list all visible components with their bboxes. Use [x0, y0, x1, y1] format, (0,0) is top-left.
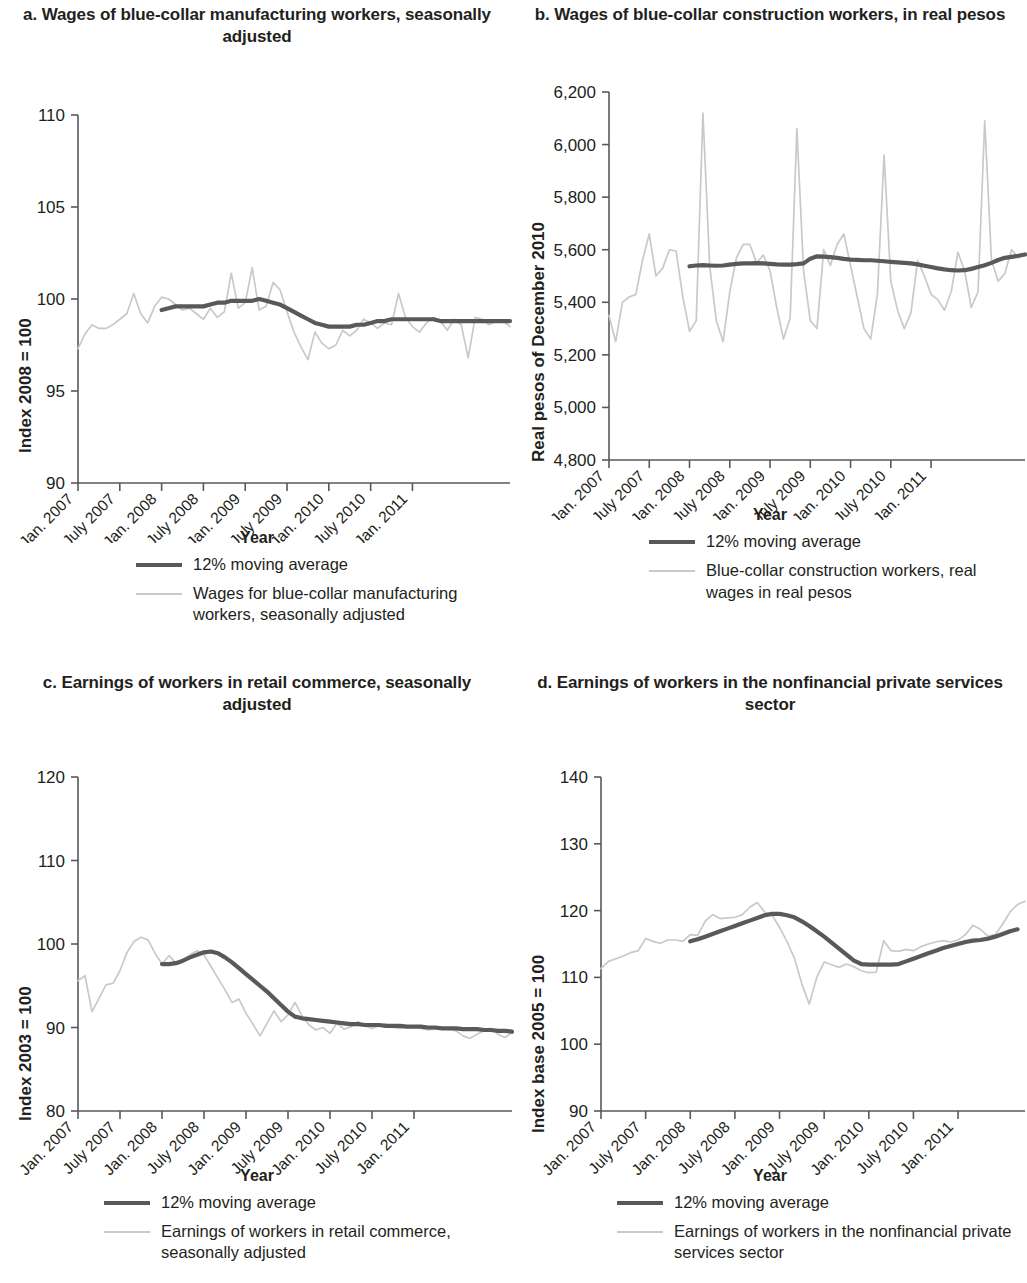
panel-c-y-axis-title: Index 2003 = 100 — [16, 986, 36, 1121]
y-tick-label: 140 — [560, 768, 588, 787]
panel-a-plot: Index 2008 = 100 9095100105110Jan. 2007J… — [0, 53, 514, 543]
legend-label-raw: Earnings of workers in the nonfinancial … — [674, 1221, 1027, 1265]
series-line-raw — [78, 937, 512, 1038]
y-tick-label: 100 — [37, 290, 65, 309]
panel-c-legend: 12% moving average Earnings of workers i… — [104, 1192, 514, 1264]
series-line-moving-average — [162, 951, 512, 1031]
panel-b-plot: Real pesos of December 2010 4,8005,0005,… — [513, 30, 1027, 520]
y-tick-label: 90 — [46, 474, 65, 493]
panel-c-plot: Index 2003 = 100 8090100110120Jan. 2007J… — [0, 721, 514, 1181]
legend-label-raw: Earnings of workers in retail commerce, … — [161, 1221, 514, 1265]
legend-line-ma-icon — [136, 563, 182, 567]
y-tick-label: 5,800 — [553, 189, 596, 208]
legend-item-raw-series: Earnings of workers in the nonfinancial … — [617, 1221, 1027, 1265]
panel-c: c. Earnings of workers in retail commerc… — [0, 672, 514, 1264]
y-tick-label: 120 — [37, 768, 65, 787]
panel-b-title: b. Wages of blue-collar construction wor… — [513, 4, 1027, 26]
legend-line-ma-icon — [104, 1201, 150, 1205]
legend-label-ma: 12% moving average — [161, 1192, 316, 1214]
panel-b-svg: 4,8005,0005,2005,4005,6005,8006,0006,200… — [513, 30, 1027, 520]
panel-a-y-axis-title: Index 2008 = 100 — [16, 318, 36, 453]
y-tick-label: 110 — [561, 968, 588, 987]
panel-d-svg: 90100110120130140Jan. 2007July 2007Jan. … — [513, 721, 1027, 1181]
legend-line-ma-icon — [649, 540, 695, 544]
panel-b-y-axis-title: Real pesos of December 2010 — [529, 222, 549, 462]
y-tick-label: 90 — [46, 1018, 65, 1037]
y-tick-label: 6,000 — [553, 136, 596, 155]
y-tick-label: 130 — [560, 835, 588, 854]
legend-line-raw-icon — [617, 1231, 663, 1233]
legend-label-ma: 12% moving average — [706, 531, 861, 553]
legend-label-raw: Blue-collar construction workers, real w… — [706, 560, 1027, 604]
panel-d-legend: 12% moving average Earnings of workers i… — [617, 1192, 1027, 1264]
series-line-raw — [609, 113, 1025, 342]
y-tick-label: 90 — [569, 1102, 588, 1121]
legend-label-ma: 12% moving average — [674, 1192, 829, 1214]
legend-item-raw-series: Wages for blue-collar manufacturing work… — [136, 583, 514, 627]
y-tick-label: 5,000 — [553, 399, 596, 418]
panel-a-legend: 12% moving average Wages for blue-collar… — [136, 554, 514, 626]
wage-charts-figure: a. Wages of blue-collar manufacturing wo… — [0, 0, 1027, 1283]
legend-item-moving-average: 12% moving average — [104, 1192, 514, 1214]
legend-item-raw-series: Blue-collar construction workers, real w… — [649, 560, 1027, 604]
y-tick-label: 110 — [38, 106, 65, 125]
legend-line-raw-icon — [104, 1231, 150, 1233]
legend-label-ma: 12% moving average — [193, 554, 348, 576]
y-tick-label: 5,200 — [553, 346, 596, 365]
legend-item-moving-average: 12% moving average — [136, 554, 514, 576]
y-tick-label: 80 — [46, 1102, 65, 1121]
legend-line-raw-icon — [136, 593, 182, 595]
panel-b: b. Wages of blue-collar construction wor… — [513, 4, 1027, 604]
y-tick-label: 105 — [37, 198, 65, 217]
y-tick-label: 100 — [560, 1035, 588, 1054]
legend-line-ma-icon — [617, 1201, 663, 1205]
legend-item-moving-average: 12% moving average — [617, 1192, 1027, 1214]
y-tick-label: 6,200 — [553, 83, 596, 102]
y-tick-label: 100 — [37, 935, 65, 954]
y-tick-label: 95 — [46, 382, 65, 401]
y-tick-label: 110 — [38, 851, 65, 870]
legend-label-raw: Wages for blue-collar manufacturing work… — [193, 583, 514, 627]
legend-line-raw-icon — [649, 570, 695, 572]
y-tick-label: 5,400 — [553, 294, 596, 313]
panel-a-svg: 9095100105110Jan. 2007July 2007Jan. 2008… — [0, 53, 514, 543]
panel-a-title: a. Wages of blue-collar manufacturing wo… — [0, 4, 514, 49]
y-tick-label: 120 — [560, 901, 588, 920]
legend-item-moving-average: 12% moving average — [649, 531, 1027, 553]
series-line-moving-average — [690, 914, 1017, 965]
panel-d: d. Earnings of workers in the nonfinanci… — [513, 672, 1027, 1264]
series-line-raw — [601, 901, 1025, 1004]
series-line-moving-average — [690, 255, 1025, 271]
panel-d-y-axis-title: Index base 2005 = 100 — [529, 955, 549, 1133]
panel-a: a. Wages of blue-collar manufacturing wo… — [0, 4, 514, 626]
panel-c-svg: 8090100110120Jan. 2007July 2007Jan. 2008… — [0, 721, 514, 1181]
panel-d-plot: Index base 2005 = 100 90100110120130140J… — [513, 721, 1027, 1181]
y-tick-label: 4,800 — [553, 451, 596, 470]
panel-b-legend: 12% moving average Blue-collar construct… — [649, 531, 1027, 603]
panel-d-title: d. Earnings of workers in the nonfinanci… — [513, 672, 1027, 717]
y-tick-label: 5,600 — [553, 241, 596, 260]
panel-c-title: c. Earnings of workers in retail commerc… — [0, 672, 514, 717]
legend-item-raw-series: Earnings of workers in retail commerce, … — [104, 1221, 514, 1265]
